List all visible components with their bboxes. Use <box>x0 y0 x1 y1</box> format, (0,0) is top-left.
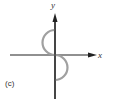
x-axis-arrow-icon <box>88 53 97 58</box>
axes-plot <box>0 0 129 102</box>
curve-lower-arc <box>55 55 67 80</box>
panel-label: (c) <box>5 80 14 88</box>
curve-upper-arc <box>43 30 56 55</box>
y-axis-label: y <box>51 1 55 10</box>
diagram-figure: y x (c) <box>0 0 129 102</box>
x-axis-label: x <box>98 51 102 60</box>
